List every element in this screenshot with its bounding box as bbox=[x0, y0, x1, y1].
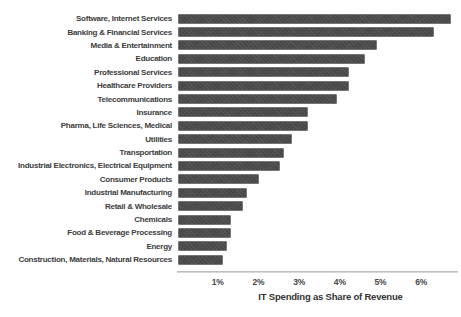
x-axis-tick-label: 1% bbox=[212, 277, 224, 287]
category-label: Consumer Products bbox=[0, 175, 178, 184]
bar-row: Consumer Products bbox=[0, 173, 451, 186]
bar-row: Utilities bbox=[0, 133, 451, 146]
category-label: Transportation bbox=[0, 148, 178, 157]
bar-row: Education bbox=[0, 52, 451, 65]
bar-track bbox=[178, 94, 337, 104]
category-label: Media & Entertainment bbox=[0, 41, 178, 50]
bar bbox=[178, 255, 223, 265]
bar-row: Healthcare Providers bbox=[0, 79, 451, 92]
bar-track bbox=[178, 134, 292, 144]
category-label: Professional Services bbox=[0, 68, 178, 77]
x-axis-tick-label: 4% bbox=[334, 277, 346, 287]
x-axis-tick-label: 6% bbox=[415, 277, 427, 287]
category-label: Healthcare Providers bbox=[0, 81, 178, 90]
category-label: Banking & Financial Services bbox=[0, 28, 178, 37]
x-axis-tick-label: 3% bbox=[293, 277, 305, 287]
bar-row: Industrial Manufacturing bbox=[0, 186, 451, 199]
bar-track bbox=[178, 188, 247, 198]
category-label: Telecommunications bbox=[0, 95, 178, 104]
bar bbox=[178, 241, 227, 251]
x-axis-tick-label: 2% bbox=[252, 277, 264, 287]
bar-row: Industrial Electronics, Electrical Equip… bbox=[0, 159, 451, 172]
bar bbox=[178, 40, 377, 50]
bar bbox=[178, 188, 247, 198]
bar-track bbox=[178, 174, 259, 184]
bar-track bbox=[178, 255, 223, 265]
bar bbox=[178, 54, 365, 64]
bar-track bbox=[178, 40, 377, 50]
category-label: Education bbox=[0, 54, 178, 63]
x-axis-ticks: 1%2%3%4%5%6% bbox=[177, 277, 458, 289]
bar bbox=[178, 148, 284, 158]
bar-track bbox=[178, 14, 451, 24]
bar bbox=[178, 81, 349, 91]
category-label: Retail & Wholesale bbox=[0, 202, 178, 211]
bar-track bbox=[178, 215, 231, 225]
bar-row: Construction, Materials, Natural Resourc… bbox=[0, 253, 451, 266]
bar bbox=[178, 161, 280, 171]
x-axis-tick-label: 5% bbox=[375, 277, 387, 287]
x-axis-title: IT Spending as Share of Revenue bbox=[190, 291, 461, 302]
bar-track bbox=[178, 81, 349, 91]
bar-rows: Software, Internet ServicesBanking & Fin… bbox=[0, 12, 451, 266]
bar bbox=[178, 67, 349, 77]
bar-track bbox=[178, 161, 280, 171]
bar-track bbox=[178, 27, 434, 37]
bar-row: Professional Services bbox=[0, 66, 451, 79]
bar bbox=[178, 121, 308, 131]
category-label: Insurance bbox=[0, 108, 178, 117]
category-label: Utilities bbox=[0, 135, 178, 144]
bar-row: Energy bbox=[0, 240, 451, 253]
bar-track bbox=[178, 148, 284, 158]
bar bbox=[178, 215, 231, 225]
bar-track bbox=[178, 241, 227, 251]
bar-track bbox=[178, 201, 243, 211]
bar-row: Software, Internet Services bbox=[0, 12, 451, 25]
bar-track bbox=[178, 54, 365, 64]
bar-track bbox=[178, 121, 308, 131]
bar-row: Transportation bbox=[0, 146, 451, 159]
bar-row: Banking & Financial Services bbox=[0, 25, 451, 38]
bar bbox=[178, 107, 308, 117]
bar-track bbox=[178, 67, 349, 77]
bar-row: Pharma, Life Sciences, Medical bbox=[0, 119, 451, 132]
category-label: Chemicals bbox=[0, 215, 178, 224]
bar-row: Telecommunications bbox=[0, 92, 451, 105]
bar-row: Insurance bbox=[0, 106, 451, 119]
bar bbox=[178, 228, 231, 238]
bar bbox=[178, 94, 337, 104]
category-label: Industrial Manufacturing bbox=[0, 188, 178, 197]
bar bbox=[178, 27, 434, 37]
bar-track bbox=[178, 228, 231, 238]
category-label: Pharma, Life Sciences, Medical bbox=[0, 121, 178, 130]
bar bbox=[178, 134, 292, 144]
it-spending-bar-chart: Software, Internet ServicesBanking & Fin… bbox=[0, 0, 461, 317]
bar-row: Retail & Wholesale bbox=[0, 199, 451, 212]
bar-row: Chemicals bbox=[0, 213, 451, 226]
category-label: Construction, Materials, Natural Resourc… bbox=[0, 255, 178, 264]
category-label: Food & Beverage Processing bbox=[0, 228, 178, 237]
bar bbox=[178, 201, 243, 211]
bar-row: Food & Beverage Processing bbox=[0, 226, 451, 239]
category-label: Energy bbox=[0, 242, 178, 251]
x-axis-line bbox=[177, 271, 458, 273]
bar-row: Media & Entertainment bbox=[0, 39, 451, 52]
bar bbox=[178, 174, 259, 184]
bar bbox=[178, 14, 451, 24]
category-label: Software, Internet Services bbox=[0, 14, 178, 23]
category-label: Industrial Electronics, Electrical Equip… bbox=[0, 161, 178, 170]
bar-track bbox=[178, 107, 308, 117]
